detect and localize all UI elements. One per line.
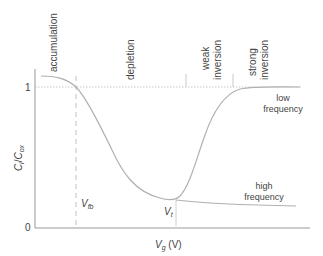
low-frequency-label-2: frequency	[263, 104, 303, 114]
low-frequency-label-1: low	[276, 93, 290, 103]
y-tick-zero: 0	[25, 222, 31, 233]
region-label-depletion: depletion	[125, 39, 136, 80]
vt-label: Vt	[164, 206, 174, 218]
vfb-label: Vfb	[81, 198, 94, 210]
region-label-weak-inversion-2: inversion	[212, 40, 223, 80]
y-axis-label: Ci/Cox	[13, 144, 25, 171]
y-tick-one: 1	[25, 82, 31, 93]
region-label-strong-inversion-1: strong	[247, 48, 258, 76]
high-frequency-label-2: frequency	[244, 192, 284, 202]
high-frequency-label-1: high	[255, 181, 272, 191]
x-axis-label: Vg (V)	[155, 239, 182, 252]
region-label-accumulation: accumulation	[48, 13, 59, 72]
cv-diagram: 1 0 Ci/Cox Vg (V) accumulation depletion…	[0, 0, 323, 256]
region-label-strong-inversion-2: inversion	[259, 40, 270, 80]
region-label-weak-inversion-1: weak	[200, 46, 211, 71]
